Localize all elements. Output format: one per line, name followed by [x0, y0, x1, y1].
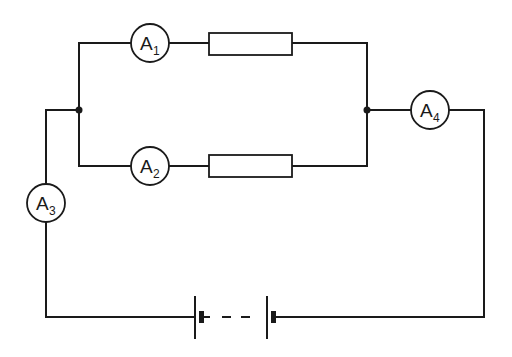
- resistor-bottom: [209, 155, 292, 177]
- svg-text:A: A: [140, 156, 153, 177]
- resistor-top: [209, 33, 292, 55]
- svg-text:A: A: [140, 33, 153, 54]
- svg-text:4: 4: [433, 111, 440, 125]
- svg-text:A: A: [420, 100, 433, 121]
- right-junction-dot: [364, 107, 371, 114]
- svg-text:2: 2: [153, 167, 160, 181]
- ammeter-a2: A 2: [131, 147, 169, 185]
- svg-text:A: A: [36, 193, 49, 214]
- ammeter-a3: A 3: [27, 184, 65, 222]
- svg-text:3: 3: [49, 204, 56, 218]
- ammeter-a1: A 1: [131, 24, 169, 62]
- wires: [46, 43, 484, 317]
- svg-text:1: 1: [153, 44, 160, 58]
- battery: [195, 296, 276, 339]
- left-junction-dot: [76, 107, 83, 114]
- circuit-diagram: A 1 A 2 A 3 A 4: [0, 0, 512, 357]
- ammeter-a4: A 4: [411, 91, 449, 129]
